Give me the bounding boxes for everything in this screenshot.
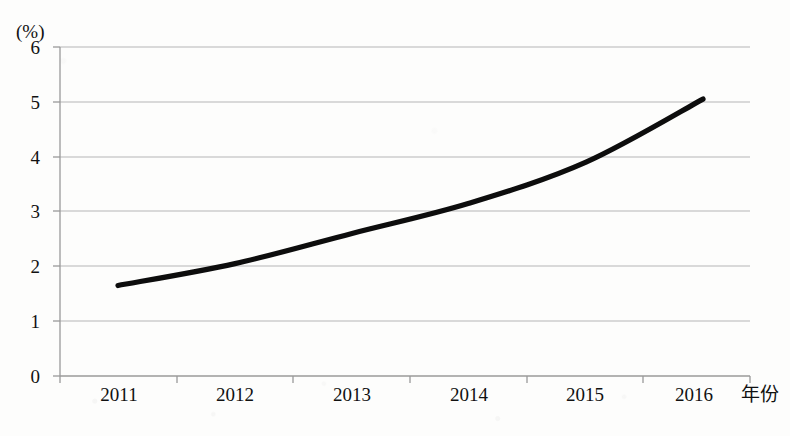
x-axis-title: 年份 bbox=[741, 385, 779, 404]
y-axis-ticks bbox=[53, 47, 60, 376]
x-tick-label-2016: 2016 bbox=[650, 385, 738, 404]
y-tick-label-0: 0 bbox=[6, 367, 40, 386]
y-tick-label-6: 6 bbox=[6, 38, 40, 57]
x-tick-label-2012: 2012 bbox=[191, 385, 279, 404]
y-tick-label-4: 4 bbox=[6, 148, 40, 167]
x-tick-label-2014: 2014 bbox=[425, 385, 513, 404]
y-tick-label-2: 2 bbox=[6, 257, 40, 276]
line-chart-plot bbox=[0, 0, 790, 436]
x-tick-label-2013: 2013 bbox=[308, 385, 396, 404]
x-axis-ticks bbox=[60, 376, 750, 383]
y-tick-label-5: 5 bbox=[6, 93, 40, 112]
chart-page: (%) bbox=[0, 0, 790, 436]
x-tick-label-2015: 2015 bbox=[541, 385, 629, 404]
x-tick-label-2011: 2011 bbox=[75, 385, 163, 404]
y-tick-label-3: 3 bbox=[6, 202, 40, 221]
y-tick-label-1: 1 bbox=[6, 312, 40, 331]
data-series-line bbox=[118, 99, 703, 285]
